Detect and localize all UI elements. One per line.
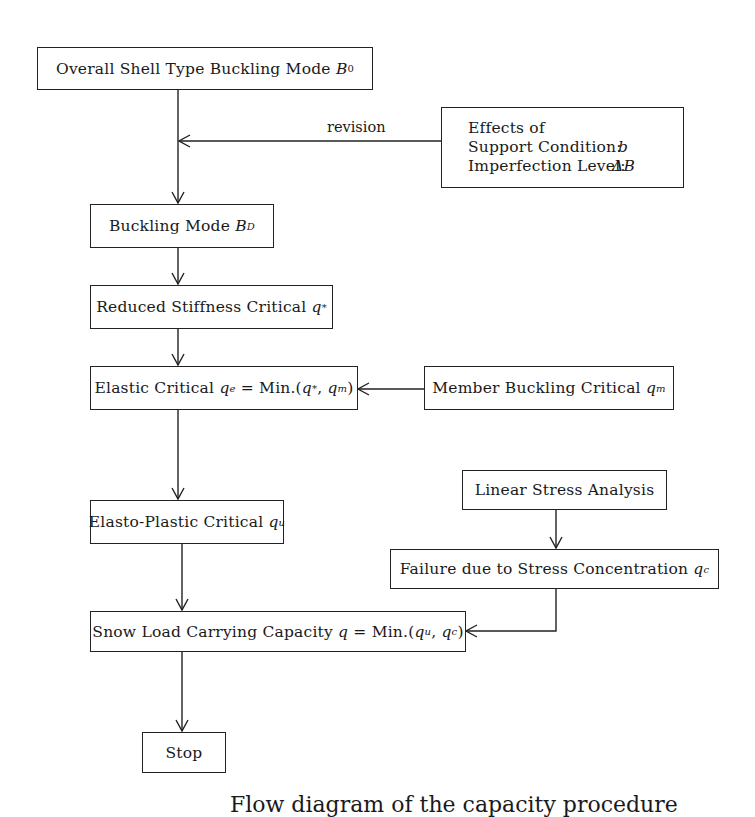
node-reduced-stiffness: Reduced Stiffness Critical q* bbox=[90, 285, 333, 329]
node-text: Reduced Stiffness Critical bbox=[96, 298, 306, 316]
node-effects: Effects of Support Condition: b Imperfec… bbox=[441, 107, 684, 188]
formula-part: = Min.( bbox=[236, 379, 302, 397]
superscript: c bbox=[703, 564, 709, 575]
node-stop: Stop bbox=[142, 732, 226, 773]
formula-part: , bbox=[317, 379, 327, 397]
formula-part: = Min.( bbox=[348, 623, 414, 641]
superscript: u bbox=[279, 517, 286, 528]
symbol-q: q bbox=[441, 623, 451, 641]
node-text: Buckling Mode bbox=[109, 217, 230, 235]
formula-part: ) bbox=[347, 379, 353, 397]
effects-title: Effects of bbox=[468, 119, 545, 138]
revision-label: revision bbox=[327, 119, 386, 135]
formula-part: ) bbox=[457, 623, 463, 641]
node-linear-stress: Linear Stress Analysis bbox=[462, 470, 667, 510]
superscript: * bbox=[322, 302, 327, 313]
symbol-q: q bbox=[327, 379, 337, 397]
support-condition-label: Support Condition: bbox=[468, 138, 618, 157]
symbol-B: B bbox=[336, 60, 348, 78]
symbol-q: q bbox=[414, 623, 424, 641]
symbol-B: B bbox=[235, 217, 247, 235]
symbol-q: q bbox=[312, 298, 322, 316]
superscript: u bbox=[425, 626, 432, 637]
node-buckling-mode: Buckling Mode BD bbox=[90, 204, 274, 248]
symbol-q: q bbox=[268, 513, 278, 531]
node-text: Failure due to Stress Concentration bbox=[400, 560, 689, 578]
imperfection-value: ΔB bbox=[612, 157, 635, 176]
formula-part: , bbox=[431, 623, 441, 641]
symbol-q: q bbox=[338, 623, 348, 641]
node-text: Member Buckling Critical bbox=[432, 379, 640, 397]
imperfection-row: Imperfection Level: ΔB bbox=[468, 157, 635, 176]
arrow-failure-to-snow bbox=[466, 588, 556, 631]
node-text: Overall Shell Type Buckling Mode bbox=[56, 60, 331, 78]
symbol-q: q bbox=[693, 560, 703, 578]
node-elasto-plastic: Elasto-Plastic Critical qu bbox=[90, 500, 284, 544]
node-overall-buckling-mode: Overall Shell Type Buckling Mode B0 bbox=[37, 47, 373, 90]
node-text: Elasto-Plastic Critical bbox=[89, 513, 264, 531]
figure-caption: Flow diagram of the capacity procedure bbox=[230, 792, 678, 817]
superscript: m bbox=[338, 383, 348, 394]
node-elastic-critical: Elastic Critical qe = Min.(q*, qm) bbox=[90, 366, 358, 410]
superscript: m bbox=[656, 383, 666, 394]
node-text: Elastic Critical bbox=[94, 379, 214, 397]
symbol-q: q bbox=[646, 379, 656, 397]
symbol-q: q bbox=[219, 379, 229, 397]
subscript: D bbox=[247, 221, 255, 232]
node-snow-load-capacity: Snow Load Carrying Capacity q = Min.(qu,… bbox=[90, 611, 466, 652]
node-failure-stress-concentration: Failure due to Stress Concentration qc bbox=[390, 549, 719, 589]
node-text: Linear Stress Analysis bbox=[475, 481, 655, 499]
symbol-q: q bbox=[302, 379, 312, 397]
node-member-buckling: Member Buckling Critical qm bbox=[424, 366, 674, 410]
support-condition-row: Support Condition: b bbox=[468, 138, 628, 157]
subscript: 0 bbox=[347, 63, 354, 74]
imperfection-label: Imperfection Level: bbox=[468, 157, 612, 176]
support-condition-value: b bbox=[618, 138, 628, 157]
node-text: Snow Load Carrying Capacity bbox=[92, 623, 333, 641]
node-text: Stop bbox=[166, 744, 203, 762]
